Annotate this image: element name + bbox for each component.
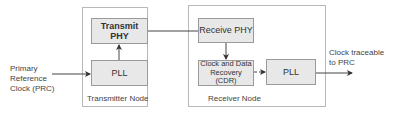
connector-lines — [0, 0, 396, 115]
